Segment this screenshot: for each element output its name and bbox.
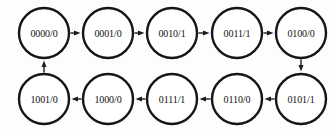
- edge-n5-to-n6: [265, 97, 275, 102]
- edge-n3-to-n4: [264, 31, 274, 36]
- state-label: 0010/1: [158, 28, 185, 39]
- edge-n0-to-n1: [71, 31, 81, 36]
- arrowhead-icon: [200, 97, 207, 102]
- state-label: 0011/1: [224, 28, 251, 39]
- state-node[interactable]: 0001/0: [83, 8, 133, 58]
- edge-n6-to-n7: [200, 97, 211, 102]
- edge-n2-to-n3: [199, 31, 210, 36]
- state-node[interactable]: 0101/1: [276, 74, 326, 124]
- arrowhead-icon: [42, 61, 47, 68]
- state-diagram-canvas: 0000/00001/00010/10011/10100/00101/10110…: [0, 0, 334, 130]
- arrowhead-icon: [136, 97, 143, 102]
- state-node[interactable]: 0100/0: [276, 8, 326, 58]
- arrowhead-icon: [299, 65, 304, 72]
- edge-n4-to-n5: [299, 60, 304, 72]
- edge-n1-to-n2: [135, 31, 145, 36]
- state-label: 1000/0: [94, 94, 121, 105]
- state-label: 0000/0: [30, 28, 57, 39]
- edge-n7-to-n8: [136, 97, 146, 102]
- arrowhead-icon: [265, 97, 272, 102]
- state-node[interactable]: 0000/0: [19, 8, 69, 58]
- arrowhead-icon: [74, 31, 81, 36]
- state-node[interactable]: 0110/0: [212, 74, 262, 124]
- state-label: 0001/0: [94, 28, 121, 39]
- state-graph: 0000/00001/00010/10011/10100/00101/10110…: [0, 0, 334, 130]
- state-label: 0100/0: [287, 28, 314, 39]
- state-label: 0110/0: [224, 94, 251, 105]
- state-node[interactable]: 0011/1: [212, 8, 262, 58]
- state-node[interactable]: 1001/0: [19, 74, 69, 124]
- arrowhead-icon: [203, 31, 210, 36]
- state-node[interactable]: 0111/1: [147, 74, 197, 124]
- arrowhead-icon: [72, 97, 79, 102]
- nodes-layer: 0000/00001/00010/10011/10100/00101/10110…: [19, 8, 326, 124]
- arrowhead-icon: [267, 31, 274, 36]
- state-label: 0111/1: [159, 94, 186, 105]
- state-node[interactable]: 1000/0: [83, 74, 133, 124]
- state-label: 0101/1: [287, 94, 314, 105]
- arrowhead-icon: [138, 31, 145, 36]
- edge-n9-to-n0: [42, 61, 47, 73]
- edge-n8-to-n9: [72, 97, 82, 102]
- state-label: 1001/0: [30, 94, 57, 105]
- state-node[interactable]: 0010/1: [147, 8, 197, 58]
